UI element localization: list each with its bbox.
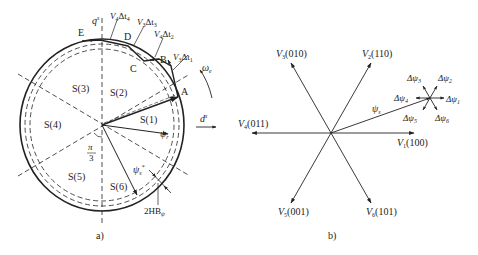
label-v5: V5(001) (278, 206, 309, 218)
sector-s2: S(2) (110, 87, 127, 99)
label-v6: V6(101) (366, 206, 397, 218)
delta-psi-1-label: Δψ1 (445, 94, 460, 105)
sector-s1: S(1) (140, 114, 157, 126)
point-e: E (78, 27, 84, 38)
sector-s3: S(3) (72, 83, 89, 95)
diagram-canvas: qs ds E D C B A V3Δt1 V4Δt2 V3Δt3 V4Δt4 … (0, 0, 478, 255)
delta-psi-2-label: Δψ2 (437, 73, 452, 84)
delta-psi-3-label: Δψ3 (406, 73, 421, 84)
sector-s6: S(6) (110, 181, 127, 193)
figure-b (252, 63, 444, 203)
label-v3: V3(010) (276, 48, 307, 60)
label-v1: V1(100) (397, 137, 428, 149)
angle-denominator: 3 (89, 153, 94, 163)
q-axis-label: qs (92, 15, 100, 26)
vector-v2 (331, 63, 371, 133)
psi-s-label-b: ψs (372, 103, 381, 115)
label-v4: V4(011) (238, 118, 268, 130)
label-v2: V2(110) (362, 48, 392, 60)
figure-stage: qs ds E D C B A V3Δt1 V4Δt2 V3Δt3 V4Δt4 … (0, 0, 478, 255)
delta-psi-6 (430, 98, 437, 110)
delta-psi-2 (430, 86, 437, 98)
point-c: C (130, 63, 137, 74)
step-v4-dt4: V4Δt4 (110, 11, 130, 22)
point-b: B (160, 54, 167, 65)
delta-psi-5-label: Δψ5 (402, 113, 417, 124)
psi-s-ref-label: ψs* (133, 164, 145, 176)
sector-s5: S(5) (68, 171, 85, 183)
step-v3-dt1: V3Δt1 (173, 52, 193, 63)
rotation-arrow (200, 70, 212, 98)
vector-v3 (291, 63, 331, 133)
delta-psi-3 (423, 86, 430, 98)
omega-e-label: ωe (202, 62, 212, 74)
caption-a: a) (96, 230, 104, 242)
psi-r-vector (102, 125, 168, 134)
figure-b-labels: V1(100) V2(110) V3(010) V4(011) V5(001) … (238, 48, 460, 242)
point-a: A (181, 86, 189, 97)
band-width-label: 2HBψ (144, 206, 165, 217)
delta-psi-6-label: Δψ6 (434, 113, 449, 124)
step-v3-dt3: V3Δt3 (137, 17, 157, 28)
delta-psi-4-label: Δψ4 (393, 93, 408, 104)
psi-r-label: ψr (160, 128, 169, 140)
point-d: D (124, 31, 131, 42)
caption-b: b) (328, 230, 336, 242)
vector-v6 (331, 133, 371, 203)
vector-v5 (291, 133, 331, 203)
sector-s4: S(4) (44, 119, 61, 131)
step-v4-dt2: V4Δt2 (154, 29, 174, 40)
angle-numerator: π (88, 142, 93, 152)
psi-s-vector-b (331, 98, 430, 133)
d-axis-label: ds (200, 113, 208, 124)
